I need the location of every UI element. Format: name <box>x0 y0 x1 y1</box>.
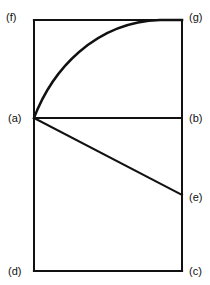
sloped-ae <box>34 118 182 195</box>
label-b: (b) <box>189 112 202 124</box>
label-d: (d) <box>8 265 21 277</box>
curve-ag <box>34 20 182 118</box>
label-f: (f) <box>6 11 16 23</box>
label-e: (e) <box>189 191 202 203</box>
label-g: (g) <box>189 11 202 23</box>
geometry-diagram: (f) (g) (a) (b) (e) (d) (c) <box>0 0 210 285</box>
label-c: (c) <box>189 265 202 277</box>
label-a: (a) <box>8 112 21 124</box>
